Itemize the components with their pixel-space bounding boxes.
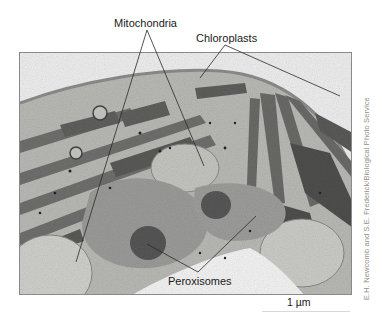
label-peroxisomes: Peroxisomes [168,276,232,287]
scale-bar [262,311,350,312]
photo-credit: E.H. Newcomb and S.E. Frederick/Biologic… [362,97,371,300]
scale-bar-label: 1 µm [287,296,311,308]
electron-micrograph [19,52,352,295]
micrograph-image [20,53,352,295]
label-mitochondria: Mitochondria [114,18,177,29]
label-chloroplasts: Chloroplasts [196,33,257,44]
figure: Mitochondria Chloroplasts Peroxisomes 1 … [0,0,382,313]
